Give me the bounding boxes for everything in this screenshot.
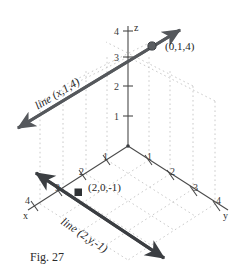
origin-dot <box>126 144 130 148</box>
y-tick-3: 3 <box>193 183 198 193</box>
coordinate-figure-svg <box>0 0 245 279</box>
z-tick-1: 1 <box>114 112 119 122</box>
z-tick-3: 3 <box>114 53 119 63</box>
y-axis <box>128 146 228 210</box>
point-label-0-1-4: (0,1,4) <box>165 41 194 52</box>
y-tick-2: 2 <box>170 167 175 177</box>
x-axis-label: x <box>23 211 28 221</box>
figure-caption: Fig. 27 <box>30 251 64 263</box>
point-label-2-0-neg1: (2,0,-1) <box>88 182 121 193</box>
z-tick-2: 2 <box>114 82 119 92</box>
y-axis-label: y <box>223 211 228 221</box>
x-tick-2: 2 <box>79 167 84 177</box>
point-marker-0-1-4 <box>148 42 156 50</box>
point-marker-2-0-neg1 <box>75 189 83 197</box>
y-tick-1: 1 <box>147 152 152 162</box>
z-tick-4: 4 <box>114 27 119 37</box>
x-tick-1: 1 <box>103 152 108 162</box>
z-axis-label: z <box>134 23 138 33</box>
y-tick-4: 4 <box>216 196 221 206</box>
figure-27-container: z x y 1 2 3 4 1 2 3 4 1 2 3 4 (0,1,4) (2… <box>0 0 245 279</box>
x-tick-4: 4 <box>25 196 30 206</box>
x-tick-3: 3 <box>55 183 60 193</box>
